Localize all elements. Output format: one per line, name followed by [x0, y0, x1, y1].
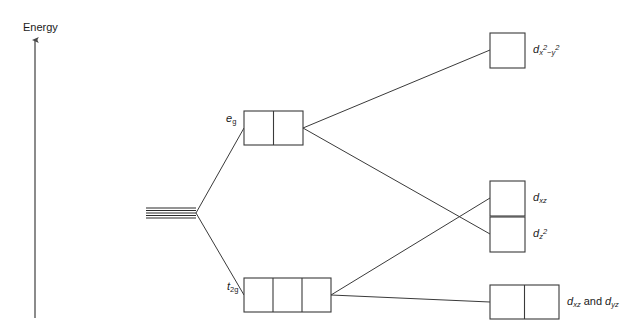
dxz-upper-orbital-label: dxz: [533, 192, 547, 205]
crystal-field-diagram: Energy eg t2g dx2−y2 dxz dz2 dxz and dyz: [0, 0, 629, 332]
dx2-y2-orbital-box: [490, 33, 525, 68]
dz2-label-sup: 2: [543, 227, 547, 236]
t2g-level-label: t2g: [227, 281, 238, 294]
eg-level-label: eg: [226, 113, 236, 126]
dz2-orbital-label: dz2: [533, 228, 547, 241]
dxz-dyz-label-sub1: xz: [573, 300, 581, 309]
energy-axis-label: Energy: [23, 22, 58, 33]
t2g-level-label-subscript: 2g: [230, 285, 238, 294]
dxz-upper-label-sub: xz: [539, 196, 547, 205]
dxz-upper-orbital-box: [490, 181, 525, 216]
dx2-y2-orbital-label: dx2−y2: [533, 44, 559, 57]
correlation-lines-primary: [196, 128, 244, 295]
dx2-y2-label-sup-2b: 2: [555, 43, 559, 52]
dxz-dyz-orbital-box: [490, 285, 559, 319]
correlation-lines-t2g: [331, 198, 490, 302]
dxz-dyz-label-sub2: yz: [611, 300, 619, 309]
degenerate-d-levels: [146, 208, 196, 218]
correlation-lines-eg: [303, 50, 490, 234]
dxz-dyz-label-conjunction: and: [581, 295, 605, 307]
dz2-orbital-box: [490, 217, 525, 252]
dxz-dyz-orbital-label: dxz and dyz: [567, 296, 619, 309]
t2g-orbital-box: [244, 278, 331, 312]
eg-orbital-box: [244, 111, 303, 145]
eg-level-label-subscript: g: [232, 117, 236, 126]
